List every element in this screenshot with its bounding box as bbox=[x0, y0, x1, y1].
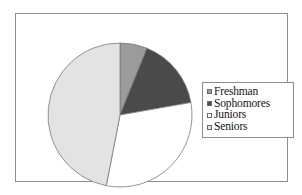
legend-item-freshman[interactable]: Freshman bbox=[207, 86, 289, 98]
legend-label-seniors: Seniors bbox=[214, 121, 247, 133]
legend-swatch-sophomores bbox=[207, 101, 212, 106]
legend-swatch-juniors bbox=[207, 113, 212, 118]
legend-item-seniors[interactable]: Seniors bbox=[207, 121, 289, 133]
pie-slice-seniors[interactable] bbox=[48, 43, 120, 186]
pie-chart bbox=[33, 30, 178, 175]
chart-frame: Freshman Sophomores Juniors Seniors bbox=[15, 13, 288, 182]
legend-swatch-freshman bbox=[207, 89, 212, 94]
chart-legend: Freshman Sophomores Juniors Seniors bbox=[202, 82, 294, 138]
legend-swatch-seniors bbox=[207, 125, 212, 130]
legend-label-freshman: Freshman bbox=[214, 86, 258, 98]
pie-svg bbox=[33, 30, 178, 175]
